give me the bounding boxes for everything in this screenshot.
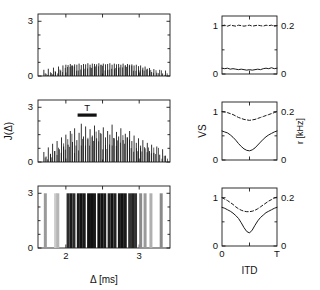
figure-canvas: 0303T0323J(Δ)Δ [ms]0100.20100.20100.20TV…: [0, 0, 320, 290]
histogram-bar: [162, 149, 163, 162]
histogram-bar: [98, 130, 99, 162]
histogram-bar: [120, 128, 121, 162]
histogram-bar: [79, 133, 80, 162]
y-tick-label-left: 1: [213, 192, 218, 203]
right-axis-ylabel: VS: [197, 124, 208, 138]
histogram-bar: [87, 139, 88, 162]
histogram-bar: [118, 64, 119, 76]
histogram-bar: [80, 193, 83, 248]
histogram-bar: [134, 136, 135, 162]
histogram-bar: [123, 140, 124, 162]
histogram-bar: [95, 66, 96, 76]
histogram-bar: [162, 159, 163, 162]
histogram-bar: [161, 70, 162, 76]
histogram-bar: [56, 193, 59, 248]
histogram-bar: [149, 151, 150, 162]
histogram-bar: [55, 72, 56, 76]
histogram-bar: [116, 64, 117, 76]
histogram-bar: [65, 68, 66, 76]
histogram-bar: [165, 71, 166, 76]
right-axis-ylabel2: r [kHz]: [295, 118, 305, 144]
histogram-bar: [83, 64, 84, 76]
histogram-bar: [101, 65, 102, 76]
histogram-bar: [134, 193, 137, 248]
right-axis-xlabel: ITD: [241, 265, 257, 276]
histogram-bar: [140, 65, 141, 76]
histogram-bar: [162, 73, 163, 76]
vector-strength-curve: [222, 207, 277, 233]
histogram-bar: [90, 65, 91, 76]
histogram-bar: [78, 70, 79, 76]
histogram-bar: [118, 136, 119, 162]
histogram-bar: [82, 139, 83, 162]
histogram-bar: [142, 68, 143, 76]
histogram-bar: [72, 193, 75, 248]
histogram-bar: [74, 64, 75, 76]
histogram-bar: [94, 64, 95, 76]
histogram-bar: [69, 147, 70, 162]
histogram-bar: [71, 65, 72, 76]
histogram-bar: [63, 147, 64, 163]
rate-curve: [222, 197, 277, 212]
y-tick-label-left: 0: [213, 240, 218, 251]
histogram-bar: [50, 72, 51, 76]
histogram-bar: [46, 74, 47, 76]
histogram-bar: [149, 68, 150, 76]
histogram-bar: [98, 63, 99, 76]
histogram-bar: [165, 75, 166, 76]
histogram-bar: [131, 193, 134, 248]
histogram-bar: [128, 193, 131, 248]
histogram-bar: [114, 64, 115, 76]
histogram-bar: [114, 138, 115, 162]
histogram-bar: [70, 131, 71, 162]
histogram-bar: [111, 193, 114, 248]
histogram-bar: [48, 69, 49, 76]
histogram-bar: [79, 64, 80, 76]
histogram-bar: [70, 64, 71, 76]
figure-root: 0303T0323J(Δ)Δ [ms]0100.20100.20100.20TV…: [0, 0, 320, 290]
histogram-bar: [151, 145, 152, 162]
histogram-bar: [148, 147, 149, 162]
x-tick-label: 3: [137, 250, 142, 261]
histogram-bar: [92, 136, 93, 162]
y-tick-label-right: 0: [281, 154, 286, 165]
histogram-bar: [52, 74, 53, 76]
x-tick-label: 0: [219, 248, 224, 259]
y-tick-label-right: 0.2: [281, 106, 294, 117]
y-tick-label-left: 0: [213, 68, 218, 79]
histogram-bar: [93, 193, 96, 248]
y-tick-label-right: 0: [281, 240, 286, 251]
y-tick-label-right: 0: [281, 68, 286, 79]
histogram-bar: [120, 65, 121, 76]
histogram-bar: [85, 69, 86, 76]
histogram-bar: [145, 67, 146, 76]
histogram-bar: [68, 145, 69, 162]
histogram-bar: [136, 143, 137, 162]
histogram-bar: [51, 157, 52, 162]
x-tick-label: T: [274, 248, 280, 259]
histogram-bar: [81, 65, 82, 76]
histogram-bar: [44, 193, 47, 248]
histogram-bar: [153, 153, 154, 162]
histogram-bar: [129, 65, 130, 76]
histogram-bar: [70, 193, 73, 248]
histogram-bar: [96, 138, 97, 162]
histogram-bar: [85, 64, 86, 76]
histogram-bar: [159, 155, 160, 162]
vector-strength-curve: [222, 131, 277, 151]
histogram-bar: [83, 193, 86, 248]
histogram-bar: [65, 65, 66, 76]
period-marker-label: T: [84, 102, 90, 113]
histogram-bar: [90, 129, 91, 162]
histogram-bar: [92, 64, 93, 76]
histogram-bar: [48, 147, 49, 162]
histogram-bar: [158, 148, 159, 162]
histogram-bar: [65, 135, 66, 162]
histogram-bar: [117, 140, 118, 162]
histogram-bar: [103, 64, 104, 76]
period-marker-bar: [78, 114, 97, 117]
histogram-bar: [151, 72, 152, 76]
histogram-bar: [127, 137, 128, 162]
histogram-bar: [156, 147, 157, 163]
histogram-bar: [87, 63, 88, 76]
